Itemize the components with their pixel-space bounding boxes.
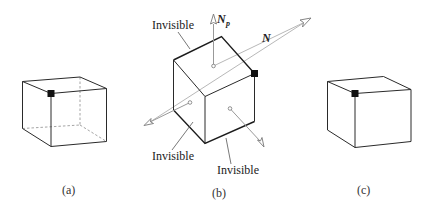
label-invisible-bottom-right: Invisible (217, 163, 259, 177)
face-center-dot (212, 64, 216, 68)
panel-a: (a) (23, 77, 107, 197)
panel-c: (c) (328, 77, 412, 198)
caption-c: (c) (357, 183, 370, 197)
leader-invisible-top (178, 32, 190, 49)
label-face-normal-subscript: p (225, 19, 230, 28)
figure-canvas: (a) (0, 0, 435, 211)
hidden-line-removal-figure: (a) (0, 0, 435, 211)
view-vector-arrow-head-icon (300, 18, 311, 27)
panel-b: N p N Invisible Invisible Invisible (b) (144, 12, 311, 200)
vertex-marker-a (48, 90, 55, 97)
face-center-dot (188, 101, 192, 105)
face-center-dot (228, 107, 232, 111)
arrow-head-icon (211, 14, 217, 24)
label-view-vector: N (261, 31, 272, 45)
label-invisible-bottom-left: Invisible (152, 149, 194, 163)
label-invisible-top: Invisible (152, 18, 194, 32)
leader-invisible-bottom-right (226, 138, 231, 164)
vertex-marker-b (251, 70, 258, 77)
caption-a: (a) (62, 183, 75, 197)
face-normal-right (228, 107, 264, 147)
cube-a-visible-edges (23, 77, 107, 147)
leader-invisible-bottom-left (172, 122, 193, 150)
vertex-marker-c (352, 90, 359, 97)
cube-c-visible-edges (328, 77, 412, 148)
caption-b: (b) (212, 186, 226, 200)
arrow-head-icon (144, 119, 154, 126)
